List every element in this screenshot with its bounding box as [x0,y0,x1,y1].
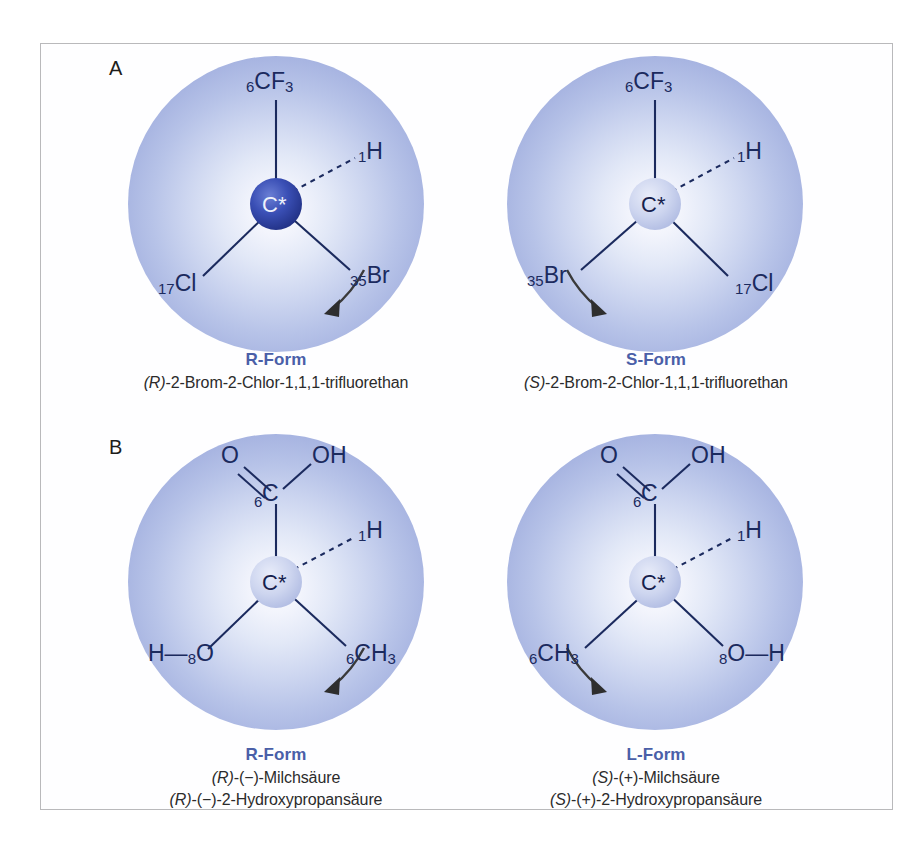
substituent-label-upper-right: 1H [737,140,762,164]
element-symbol: H [366,138,383,164]
caption-line: (R)-(−)-Milchsäure [91,767,461,789]
figure-frame: A [40,43,893,810]
panel-letter-a: A [109,57,122,80]
substituent-label-lower-left: 17Cl [158,272,196,296]
caption-line-visible: -2-Brom-2-Chlor-1,1,1-trifluorethan [545,374,788,391]
carboxyl-carbon-number: 6 [254,494,262,509]
carboxyl-carbon-label: C [641,482,658,505]
caption-line-visible: -(−)-2-Hydroxypropansäure [192,791,383,808]
panel-a: A [41,44,894,414]
molecule-sphere-b-left: C* O OH C 6 1H H—8O 6CH3 [128,434,424,730]
molecule-sphere-b-right: C* O OH C 6 1H 6CH3 8O—H [507,434,803,730]
central-atom-label: C* [262,572,286,594]
element-symbol: C [262,480,279,506]
hydrogen-prefix: H— [148,640,188,666]
mass-number: 6 [633,493,641,510]
substituent-label-upper-right: 1H [358,519,383,543]
molecule-sphere-a-left: C* 6CF3 1H 17Cl 35Br [128,56,424,352]
substituent-label-upper-right: 1H [358,140,383,164]
substituent-label-lower-right: 6CH3 [346,642,396,666]
substituent-label-top: 6CF3 [246,70,293,94]
mass-number: 17 [158,280,175,297]
atom-count: 3 [571,650,579,667]
hydrogen-suffix: —H [745,640,785,666]
molecule-sphere-a-right: C* 6CF3 1H 35Br 17Cl [507,56,803,352]
caption-line: (R)-(−)-2-Hydroxypropansäure [91,789,461,811]
mass-number: 17 [735,280,752,297]
element-symbol: O [196,640,214,666]
caption-line-visible: -(−)-Milchsäure [234,769,341,786]
carboxyl-hydroxyl-label: OH [312,444,347,467]
central-atom-label: C* [641,572,665,594]
central-atom-label: C* [262,194,286,216]
caption-title: R-Form [91,744,461,767]
panel-letter-b: B [109,436,122,459]
panel-b: B [41,414,894,811]
mass-number: 8 [188,650,196,667]
caption-line: (R)(R)-2-Brom-2-Chlor-1,1,1-trifluoretha… [91,372,461,394]
substituent-label-lower-right: 35Br [350,264,390,288]
mass-number: 6 [254,493,262,510]
atom-count: 3 [664,78,672,95]
rotation-arrowhead [591,299,607,317]
caption-b-left: R-Form (R)-(−)-Milchsäure (R)-(−)-2-Hydr… [91,744,461,810]
element-symbol: CH [537,640,570,666]
caption-line-visible: -(+)-2-Hydroxypropansäure [571,791,762,808]
rotation-arrowhead [591,677,607,695]
caption-line: (S)-(+)-2-Hydroxypropansäure [471,789,841,811]
element-symbol: CH [354,640,387,666]
substituent-label-upper-right: 1H [737,519,762,543]
carboxyl-oxygen-label: O [221,444,239,467]
carboxyl-hydroxyl-label: OH [691,444,726,467]
caption-a-right: S-Form (S)-2-Brom-2-Chlor-1,1,1-trifluor… [471,349,841,394]
substituent-label-lower-right: 8O—H [719,642,785,666]
element-symbol: CF [254,68,285,94]
substituent-label-lower-left: 6CH3 [529,642,579,666]
caption-a-left: R-Form (R)(R)-2-Brom-2-Chlor-1,1,1-trifl… [91,349,461,394]
atom-count: 3 [388,650,396,667]
substituent-label-lower-right: 17Cl [735,272,773,296]
caption-title: R-Form [91,349,461,372]
element-symbol: H [745,517,762,543]
bond-lower-left [203,214,267,276]
caption-b-right: L-Form (S)-(+)-Milchsäure (S)-(+)-2-Hydr… [471,744,841,810]
caption-line-visible: -2-Brom-2-Chlor-1,1,1-trifluorethan [166,374,409,391]
rotation-arrowhead [324,677,340,695]
substituent-label-top: 6CF3 [625,70,672,94]
carboxyl-oxygen-label: O [600,444,618,467]
element-symbol: CF [633,68,664,94]
element-symbol: H [745,138,762,164]
element-symbol: O [727,640,745,666]
element-symbol: C [641,480,658,506]
rotation-arrowhead [324,299,340,317]
bond-lower-right [665,214,728,276]
substituent-label-lower-left: H—8O [148,642,214,666]
element-symbol: Cl [752,270,774,296]
element-symbol: Cl [175,270,197,296]
element-symbol: Br [367,262,390,288]
central-atom-label: C* [641,194,665,216]
caption-title: S-Form [471,349,841,372]
bond-lower-right [286,213,350,270]
atom-count: 3 [285,78,293,95]
mass-number: 35 [527,272,544,289]
bond-to-hydroxyl [283,464,311,489]
caption-line: (S)-(+)-Milchsäure [471,767,841,789]
carboxyl-carbon-label: C [262,482,279,505]
caption-line-visible: -(+)-Milchsäure [613,769,720,786]
mass-number: 35 [350,272,367,289]
bond-to-hydroxyl [662,464,690,489]
element-symbol: H [366,517,383,543]
carboxyl-carbon-number: 6 [633,494,641,509]
substituent-label-lower-left: 35Br [527,264,567,288]
caption-title: L-Form [471,744,841,767]
caption-line: (S)-2-Brom-2-Chlor-1,1,1-trifluorethan [471,372,841,394]
element-symbol: Br [544,262,567,288]
